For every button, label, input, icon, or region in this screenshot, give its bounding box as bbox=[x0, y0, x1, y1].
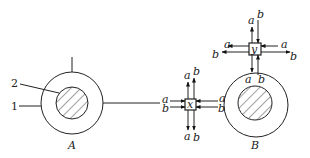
junction-y-left-b-label: b bbox=[212, 48, 219, 61]
junction-x-top-a-label: a bbox=[184, 69, 191, 82]
junction-y-bottom-b-label: b bbox=[258, 73, 265, 86]
junction-x-label: x bbox=[187, 98, 194, 111]
node-b-hatched-core bbox=[238, 86, 272, 120]
junction-y-right-a-label: a bbox=[281, 38, 288, 51]
node-b: B bbox=[224, 73, 288, 152]
junction-y-label: y bbox=[250, 43, 258, 56]
junction-x-left-b-label: b bbox=[162, 102, 169, 115]
callout-1-label: 1 bbox=[11, 100, 18, 113]
junction-x-right-b-label: b bbox=[218, 102, 225, 115]
node-a-label: A bbox=[67, 139, 76, 152]
callouts: 2 1 bbox=[11, 77, 59, 113]
junction-x-top-b-label: b bbox=[193, 65, 200, 78]
node-a-hatched-core bbox=[56, 87, 88, 119]
junction-y-left-a-label: a bbox=[224, 38, 231, 51]
junction-x: x a b a b a b a b bbox=[162, 65, 226, 144]
callout-2-label: 2 bbox=[11, 77, 18, 90]
junction-y-bottom-a-label: a bbox=[245, 73, 252, 86]
diagram-svg: A 2 1 B x a b a b a b a b bbox=[0, 0, 310, 158]
junction-x-bottom-b-label: b bbox=[193, 131, 200, 144]
node-a: A bbox=[41, 57, 160, 152]
junction-y-right-b-label: b bbox=[290, 50, 297, 63]
junction-y-top-b-label: b bbox=[257, 8, 264, 21]
diagram-canvas: A 2 1 B x a b a b a b a b bbox=[0, 0, 310, 158]
junction-x-bottom-a-label: a bbox=[184, 130, 191, 143]
node-b-label: B bbox=[250, 139, 259, 152]
junction-y: y a b a b a b a b bbox=[212, 8, 297, 86]
junction-y-top-a-label: a bbox=[248, 14, 255, 27]
callout-2-leader bbox=[20, 84, 59, 93]
